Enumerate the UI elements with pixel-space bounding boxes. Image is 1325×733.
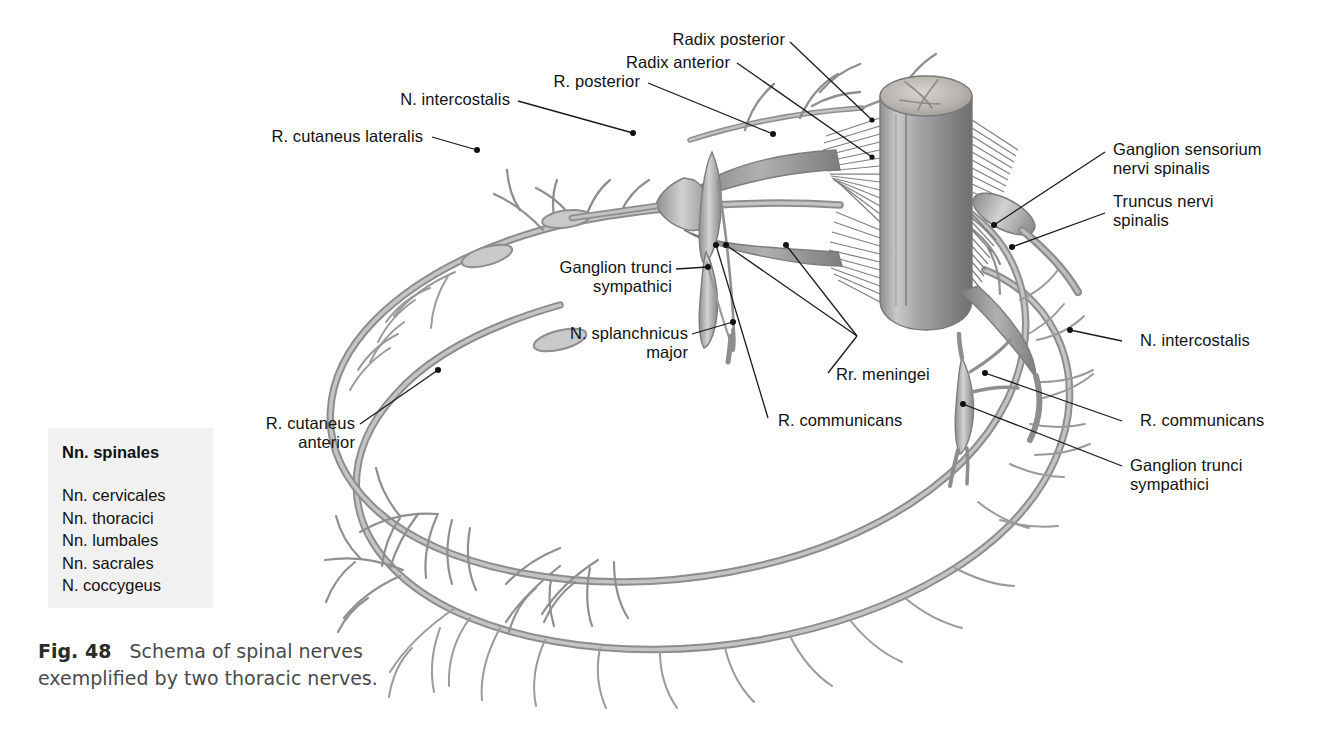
label-ganglion-sensorium-nervi-spinalis: Ganglion sensorium nervi spinalis: [1113, 140, 1323, 178]
label-n-intercostalis-right: N. intercostalis: [1140, 331, 1325, 350]
label-r-communicans-right: R. communicans: [1140, 411, 1325, 430]
figure-number: Fig. 48: [38, 640, 111, 662]
figure-caption: Fig. 48 Schema of spinal nerves exemplif…: [38, 638, 458, 692]
spinal-nerve-illustration: [0, 0, 1325, 733]
label-truncus-nervi-spinalis: Truncus nervi spinalis: [1113, 192, 1313, 230]
label-ganglion-trunci-sympathici-left: Ganglion trunci sympathici: [450, 258, 672, 296]
label-n-splanchnicus-major: N. splanchnicus major: [470, 324, 688, 362]
legend-item: Nn. sacrales: [62, 552, 213, 575]
label-ganglion-trunci-sympathici-right: Ganglion trunci sympathici: [1130, 456, 1325, 494]
label-r-posterior: R. posterior: [455, 72, 640, 91]
legend-title: Nn. spinales: [62, 443, 213, 462]
label-r-communicans-center: R. communicans: [778, 411, 968, 430]
label-radix-anterior: Radix anterior: [530, 53, 730, 72]
label-n-intercostalis-left: N. intercostalis: [305, 90, 510, 109]
legend-item: Nn. thoracici: [62, 507, 213, 530]
legend-item: Nn. cervicales: [62, 484, 213, 507]
label-rr-meningei: Rr. meningei: [836, 365, 996, 384]
figure-page: Radix posterior Radix anterior R. poster…: [0, 0, 1325, 733]
legend-item: Nn. lumbales: [62, 529, 213, 552]
intercostal-branches-left: [494, 170, 649, 231]
label-radix-posterior: Radix posterior: [585, 30, 785, 49]
legend-item: N. coccygeus: [62, 574, 213, 597]
label-r-cutaneus-lateralis: R. cutaneus lateralis: [175, 127, 423, 146]
legend-box: Nn. spinales Nn. cervicales Nn. thoracic…: [48, 428, 213, 608]
